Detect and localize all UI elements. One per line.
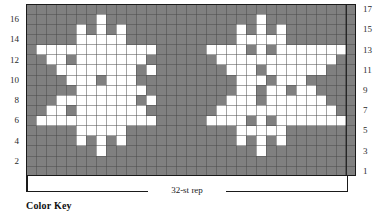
repeat-bracket: 32-st rep: [26, 176, 348, 194]
row-number-15: 15: [363, 24, 380, 34]
row-numbers-left: 161412108642: [0, 4, 22, 176]
row-number-10: 10: [0, 75, 19, 85]
row-number-7: 7: [363, 105, 380, 115]
bracket-line-right: [226, 191, 348, 193]
row-number-12: 12: [0, 55, 19, 65]
row-number-13: 13: [363, 45, 380, 55]
stitch-grid-canvas[interactable]: [26, 4, 356, 176]
row-number-11: 11: [363, 65, 380, 75]
row-number-1: 1: [363, 166, 380, 176]
color-key: Color Key: [26, 200, 72, 211]
bracket-right-tick: [347, 176, 349, 192]
color-key-title: Color Key: [26, 200, 72, 211]
knitting-chart-figure: 161412108642 1715131197531 32-st rep Col…: [0, 0, 380, 220]
row-number-17: 17: [363, 4, 380, 14]
row-number-8: 8: [0, 95, 19, 105]
row-number-16: 16: [0, 14, 19, 24]
row-numbers-right: 1715131197531: [360, 4, 380, 176]
row-number-5: 5: [363, 125, 380, 135]
row-number-3: 3: [363, 146, 380, 156]
stitch-grid[interactable]: [26, 4, 356, 176]
row-number-14: 14: [0, 34, 19, 44]
row-number-6: 6: [0, 115, 19, 125]
row-number-4: 4: [0, 136, 19, 146]
row-number-9: 9: [363, 85, 380, 95]
row-number-2: 2: [0, 156, 19, 166]
